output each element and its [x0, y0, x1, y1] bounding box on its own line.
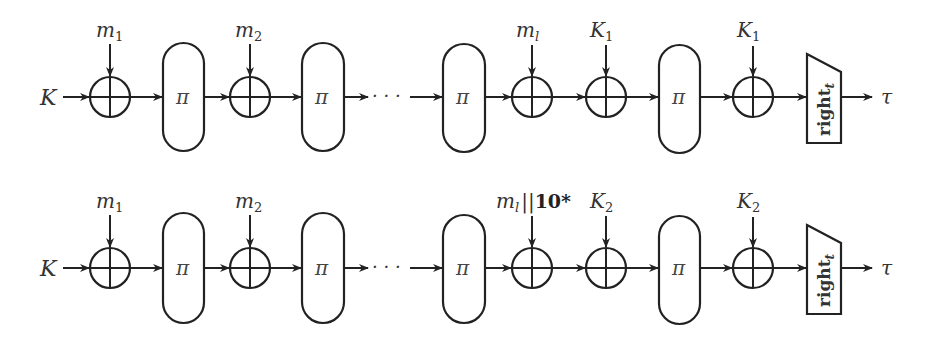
message-block-last-label: ml [516, 18, 539, 44]
mac-construction-diagram: K m1 π m2 π · · · [0, 0, 935, 342]
xor-icon [586, 77, 626, 117]
key-2-label: K2 [589, 189, 613, 215]
permutation-block: π [163, 213, 204, 323]
permutation-block: π [659, 216, 700, 324]
key-1-label: K1 [736, 18, 760, 44]
xor-icon [230, 248, 270, 288]
output-tag-label: τ [881, 85, 893, 109]
permutation-block: π [443, 44, 485, 152]
padded-last-block-label: ml||10* [496, 189, 571, 215]
xor-icon [733, 248, 773, 288]
svg-text:π: π [671, 85, 686, 109]
xor-icon [90, 77, 130, 117]
svg-text:π: π [671, 256, 686, 280]
svg-text:π: π [314, 85, 329, 109]
xor-icon [512, 77, 552, 117]
permutation-block: π [659, 45, 700, 153]
input-key-label: K [39, 85, 58, 110]
key-2-label: K2 [736, 189, 760, 215]
svg-text:π: π [314, 256, 329, 280]
xor-icon [733, 77, 773, 117]
message-block-1-label: m1 [96, 18, 123, 44]
xor-icon [90, 248, 130, 288]
xor-icon [512, 248, 552, 288]
message-block-1-label: m1 [96, 189, 123, 215]
svg-text:π: π [175, 256, 190, 280]
truncate-right-block: rightt [807, 54, 841, 143]
input-key-label: K [39, 256, 58, 281]
permutation-block: π [302, 213, 344, 323]
key-1-label: K1 [589, 18, 613, 44]
row-2: K m1 π m2 π · · · π [39, 189, 893, 324]
permutation-block: π [163, 43, 204, 151]
ellipsis: · · · [372, 85, 401, 106]
output-tag-label: τ [881, 256, 893, 280]
xor-icon [230, 77, 270, 117]
svg-text:rightt: rightt [814, 82, 837, 136]
svg-text:rightt: rightt [814, 253, 837, 307]
permutation-block: π [302, 43, 344, 151]
xor-icon [586, 248, 626, 288]
message-block-2-label: m2 [235, 18, 262, 44]
row-1: K m1 π m2 π · · · [39, 18, 893, 153]
svg-text:π: π [455, 256, 470, 280]
truncate-right-block: rightt [807, 225, 841, 314]
ellipsis: · · · [372, 256, 401, 277]
svg-text:π: π [455, 85, 470, 109]
permutation-block: π [443, 215, 485, 323]
svg-text:π: π [175, 85, 190, 109]
message-block-2-label: m2 [235, 189, 262, 215]
